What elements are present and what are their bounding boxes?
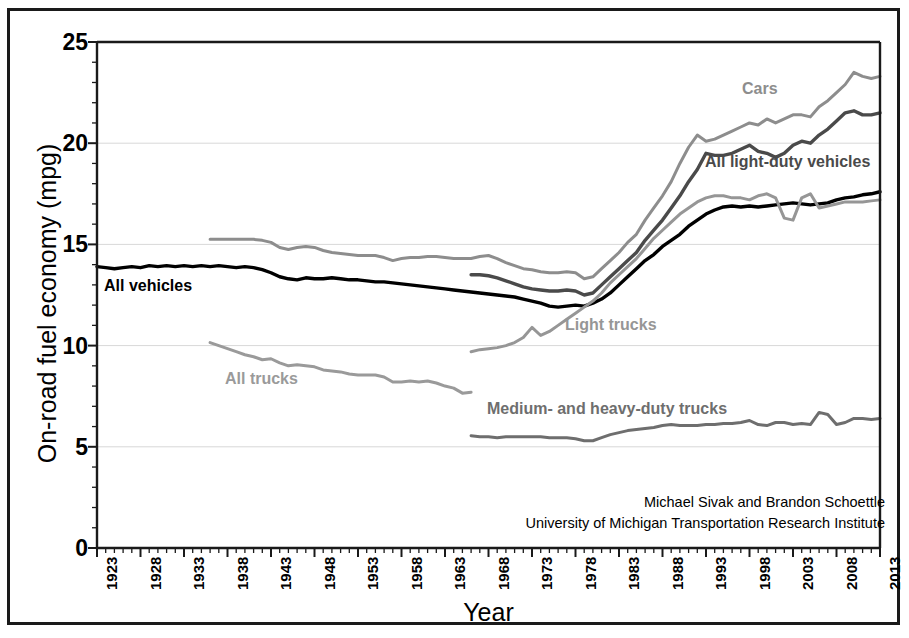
series-label-light-trucks: Light trucks <box>565 316 657 334</box>
x-tick-label: 1923 <box>103 557 120 590</box>
x-axis-title: Year <box>97 598 880 627</box>
x-tick-label: 1938 <box>234 557 251 590</box>
series-label-medium-heavy-duty-trucks: Medium- and heavy-duty trucks <box>487 400 727 418</box>
x-tick-label: 1978 <box>582 557 599 590</box>
x-tick-label: 1928 <box>147 557 164 590</box>
x-tick-label: 1998 <box>756 557 773 590</box>
x-tick-label: 1953 <box>364 557 381 590</box>
attribution-block: Michael Sivak and Brandon Schoettle Univ… <box>526 492 885 533</box>
x-tick-label: 1933 <box>190 557 207 590</box>
attribution-institute: University of Michigan Transportation Re… <box>526 513 885 534</box>
x-tick-label: 1973 <box>538 557 555 590</box>
x-tick-label: 2003 <box>799 557 816 590</box>
x-tick-label: 1943 <box>277 557 294 590</box>
series-label-cars: Cars <box>742 80 778 98</box>
x-tick-label: 1948 <box>321 557 338 590</box>
x-tick-label: 2008 <box>843 557 860 590</box>
chart-figure: 0510152025 19231928193319381943194819531… <box>0 0 909 638</box>
series-label-all-vehicles: All vehicles <box>104 277 192 295</box>
series-label-all-trucks: All trucks <box>225 370 298 388</box>
y-axis-title: On-road fuel economy (mpg) <box>33 94 62 514</box>
x-tick-label: 1988 <box>669 557 686 590</box>
x-tick-label: 1963 <box>451 557 468 590</box>
x-tick-label: 2013 <box>886 557 903 590</box>
x-tick-label: 1968 <box>495 557 512 590</box>
x-tick-label: 1983 <box>625 557 642 590</box>
x-tick-label: 1958 <box>408 557 425 590</box>
attribution-authors: Michael Sivak and Brandon Schoettle <box>526 492 885 513</box>
series-label-all-light-duty-vehicles: All light-duty vehicles <box>705 153 870 171</box>
x-tick-label: 1993 <box>712 557 729 590</box>
